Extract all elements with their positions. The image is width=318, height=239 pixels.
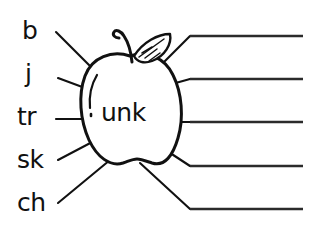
prefix-label-j: j — [25, 61, 31, 86]
worksheet-canvas: b j tr sk ch unk — [0, 0, 318, 239]
connector-right-5 — [140, 163, 190, 209]
prefix-label-b: b — [22, 18, 37, 43]
answer-lines-group — [190, 36, 303, 209]
connector-left-b — [56, 32, 92, 68]
worksheet-artwork — [0, 0, 318, 239]
connector-left-ch — [58, 160, 110, 203]
prefix-label-sk: sk — [17, 147, 44, 172]
apple-rime-text: unk — [101, 100, 146, 125]
prefix-label-ch: ch — [17, 190, 46, 215]
prefix-label-tr: tr — [17, 104, 36, 129]
